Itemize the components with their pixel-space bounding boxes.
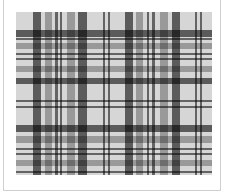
horizontal-stripe bbox=[16, 38, 212, 40]
horizontal-stripe bbox=[16, 106, 212, 108]
horizontal-stripe bbox=[16, 153, 212, 155]
horizontal-stripe bbox=[16, 148, 212, 150]
horizontal-stripe bbox=[16, 78, 212, 84]
horizontal-stripe bbox=[16, 58, 212, 60]
horizontal-stripe bbox=[16, 171, 212, 173]
horizontal-stripe bbox=[16, 160, 212, 166]
horizontal-stripe bbox=[16, 53, 212, 55]
horizontal-stripe bbox=[16, 136, 212, 143]
tartan-pattern bbox=[16, 12, 212, 175]
horizontal-stripe bbox=[16, 100, 212, 102]
horizontal-stripe bbox=[16, 125, 212, 132]
horizontal-stripe bbox=[16, 43, 212, 49]
horizontal-stripe bbox=[16, 30, 212, 37]
horizontal-stripe bbox=[16, 66, 212, 72]
